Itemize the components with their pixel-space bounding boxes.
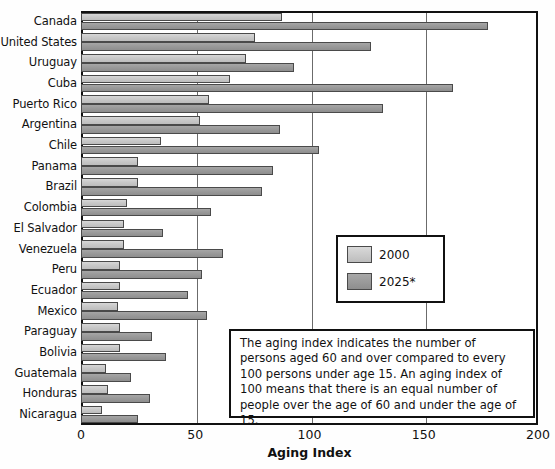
category-label: Puerto Rico xyxy=(0,97,77,111)
bar-group xyxy=(81,218,538,239)
bar-group xyxy=(81,94,538,115)
category-label: El Salvador xyxy=(0,221,77,235)
bar xyxy=(81,137,161,146)
bar xyxy=(81,332,152,341)
legend: 2000 2025* xyxy=(336,235,445,303)
category-label: Canada xyxy=(0,14,77,28)
bar-group xyxy=(81,52,538,73)
bar xyxy=(81,42,371,51)
category-label: Cuba xyxy=(0,76,77,90)
bar xyxy=(81,178,138,187)
x-axis-title: Aging Index xyxy=(81,445,538,460)
bar xyxy=(81,220,124,229)
category-label: Nicaragua xyxy=(0,407,77,421)
bar xyxy=(81,22,488,31)
x-axis-tick-labels: 050100150200 xyxy=(0,427,555,447)
bar xyxy=(81,373,131,382)
category-label: Argentina xyxy=(0,117,77,131)
bar-group xyxy=(81,32,538,53)
bar-group xyxy=(81,177,538,198)
bar-group xyxy=(81,259,538,280)
bar xyxy=(81,385,108,394)
category-label: Guatemala xyxy=(0,366,77,380)
bar xyxy=(81,311,207,320)
legend-swatch-2000-icon xyxy=(347,246,372,263)
bar xyxy=(81,33,255,42)
bar xyxy=(81,166,273,175)
category-label: Peru xyxy=(0,262,77,276)
category-label: Panama xyxy=(0,159,77,173)
bar-group xyxy=(81,197,538,218)
bar xyxy=(81,394,150,403)
category-label: Bolivia xyxy=(0,345,77,359)
bar xyxy=(81,116,200,125)
legend-swatch-2025-icon xyxy=(347,273,372,290)
category-label: Mexico xyxy=(0,304,77,318)
bar-group xyxy=(81,11,538,32)
bar xyxy=(81,146,319,155)
bar xyxy=(81,13,282,22)
bar xyxy=(81,84,453,93)
legend-item-2025: 2025* xyxy=(347,273,416,290)
x-tick-label-200: 200 xyxy=(526,427,550,442)
bar xyxy=(81,323,120,332)
category-label: Chile xyxy=(0,138,77,152)
bar xyxy=(81,282,120,291)
bar xyxy=(81,240,124,249)
bar xyxy=(81,54,246,63)
category-label: Venezuela xyxy=(0,242,77,256)
category-label: Ecuador xyxy=(0,283,77,297)
bar xyxy=(81,406,102,415)
bar-group xyxy=(81,156,538,177)
bar xyxy=(81,157,138,166)
bar xyxy=(81,249,223,258)
x-tick-label-100: 100 xyxy=(298,427,322,442)
bar xyxy=(81,208,211,217)
bar xyxy=(81,125,280,134)
category-label: Paraguay xyxy=(0,324,77,338)
category-label: Brazil xyxy=(0,179,77,193)
bar-group xyxy=(81,239,538,260)
category-axis-labels: CanadaUnited StatesUruguayCubaPuerto Ric… xyxy=(0,11,77,425)
bar-group xyxy=(81,301,538,322)
legend-label-2000: 2000 xyxy=(379,248,410,262)
legend-label-2025: 2025* xyxy=(379,275,416,289)
category-label: Uruguay xyxy=(0,55,77,69)
category-label: United States xyxy=(0,35,77,49)
bar xyxy=(81,199,127,208)
annotation-box: The aging index indicates the number of … xyxy=(229,329,535,418)
bar-group xyxy=(81,280,538,301)
category-label: Honduras xyxy=(0,386,77,400)
bar-group xyxy=(81,135,538,156)
annotation-text: The aging index indicates the number of … xyxy=(240,336,525,428)
bar xyxy=(81,353,166,362)
x-tick-label-50: 50 xyxy=(187,427,203,442)
bar xyxy=(81,261,120,270)
x-tick-label-150: 150 xyxy=(412,427,436,442)
bar xyxy=(81,291,188,300)
legend-item-2000: 2000 xyxy=(347,246,410,263)
bar xyxy=(81,75,230,84)
bar xyxy=(81,302,118,311)
bar xyxy=(81,270,202,279)
x-tick-label-0: 0 xyxy=(77,427,85,442)
bar xyxy=(81,104,383,113)
bar xyxy=(81,229,163,238)
bar xyxy=(81,344,120,353)
bar-group xyxy=(81,115,538,136)
bar xyxy=(81,63,294,72)
bar-group xyxy=(81,73,538,94)
bar xyxy=(81,95,209,104)
bar xyxy=(81,415,138,424)
category-label: Colombia xyxy=(0,200,77,214)
bar xyxy=(81,364,106,373)
aging-index-bar-chart: CanadaUnited StatesUruguayCubaPuerto Ric… xyxy=(0,0,555,469)
bar xyxy=(81,187,262,196)
